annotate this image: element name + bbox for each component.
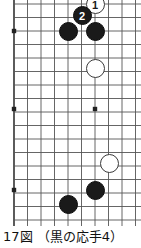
white-stone-b[interactable] <box>100 154 119 173</box>
grid-lines <box>14 0 141 226</box>
black-stone-c[interactable] <box>86 181 105 200</box>
figure-caption: 17図 （黒の応手4） <box>0 226 141 248</box>
stone-move-number: 2 <box>74 7 91 24</box>
black-stone-move-2[interactable]: 2 <box>73 6 92 25</box>
black-stone-d[interactable] <box>59 195 78 214</box>
white-stone-a[interactable] <box>86 59 105 78</box>
black-stone-a[interactable] <box>59 22 78 41</box>
go-diagram-figure: 12 17図 （黒の応手4） <box>0 0 141 248</box>
black-stone-b[interactable] <box>86 22 105 41</box>
